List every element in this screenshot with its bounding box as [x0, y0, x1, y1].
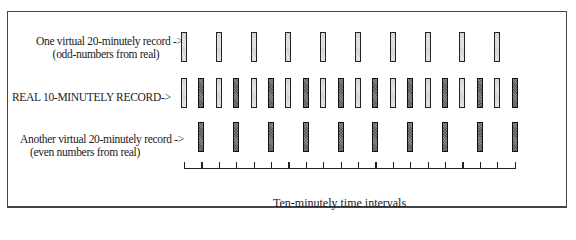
axis-tick: [428, 162, 429, 169]
bar-real-17: [459, 78, 465, 108]
bar-real-11: [355, 78, 361, 108]
axis-tick: [306, 162, 307, 169]
bar-odd-1: [181, 32, 187, 62]
bar-even-12: [372, 122, 378, 152]
bar-real-20: [512, 78, 518, 108]
row-label-odd: One virtual 20-minutely record -> (odd-n…: [36, 35, 176, 61]
axis-tick: [515, 162, 516, 169]
row-label-even-line1: Another virtual 20-minutely record ->: [20, 133, 170, 146]
axis-tick: [288, 162, 289, 169]
row-label-real: REAL 10-MINUTELY RECORD->: [12, 91, 171, 104]
bar-even-2: [198, 122, 204, 152]
axis-tick: [219, 162, 220, 169]
axis-tick: [201, 162, 202, 169]
row-label-even: Another virtual 20-minutely record -> (e…: [20, 133, 170, 159]
bar-odd-17: [459, 32, 465, 62]
bar-odd-3: [216, 32, 222, 62]
axis-tick: [393, 162, 394, 169]
bar-even-16: [442, 122, 448, 152]
bar-odd-7: [285, 32, 291, 62]
bar-real-1: [181, 78, 187, 108]
bar-real-13: [390, 78, 396, 108]
axis-tick: [184, 162, 185, 169]
axis-tick: [410, 162, 411, 169]
bar-real-2: [198, 78, 204, 108]
axis-caption: Ten-minutely time intervals: [273, 196, 406, 211]
axis-tick: [480, 162, 481, 169]
axis-tick: [271, 162, 272, 169]
bar-real-6: [268, 78, 274, 108]
bar-real-3: [216, 78, 222, 108]
bar-real-10: [338, 78, 344, 108]
bar-real-12: [372, 78, 378, 108]
bar-odd-11: [355, 32, 361, 62]
axis-tick: [375, 162, 376, 169]
bar-even-8: [303, 122, 309, 152]
axis-tick: [358, 162, 359, 169]
bar-even-14: [407, 122, 413, 152]
axis-tick: [236, 162, 237, 169]
bar-odd-5: [251, 32, 257, 62]
bar-odd-15: [425, 32, 431, 62]
bar-real-8: [303, 78, 309, 108]
bar-odd-9: [320, 32, 326, 62]
bar-even-18: [477, 122, 483, 152]
bar-odd-19: [494, 32, 500, 62]
row-label-odd-line1: One virtual 20-minutely record ->: [36, 35, 176, 48]
bar-real-16: [442, 78, 448, 108]
bar-real-4: [233, 78, 239, 108]
axis-tick: [497, 162, 498, 169]
row-label-real-line1: REAL 10-MINUTELY RECORD->: [12, 91, 171, 104]
bar-real-18: [477, 78, 483, 108]
row-label-even-line2: (even numbers from real): [20, 146, 170, 159]
bar-real-19: [494, 78, 500, 108]
bar-real-9: [320, 78, 326, 108]
axis-baseline: [184, 168, 516, 169]
bar-even-6: [268, 122, 274, 152]
bar-real-7: [285, 78, 291, 108]
axis-tick: [254, 162, 255, 169]
bar-real-14: [407, 78, 413, 108]
bar-real-15: [425, 78, 431, 108]
bar-even-20: [512, 122, 518, 152]
axis-tick: [323, 162, 324, 169]
bar-real-5: [251, 78, 257, 108]
row-label-odd-line2: (odd-numbers from real): [36, 48, 176, 61]
axis-tick: [341, 162, 342, 169]
axis-tick: [445, 162, 446, 169]
axis-tick: [462, 162, 463, 169]
bar-odd-13: [390, 32, 396, 62]
bar-even-4: [233, 122, 239, 152]
bar-even-10: [338, 122, 344, 152]
